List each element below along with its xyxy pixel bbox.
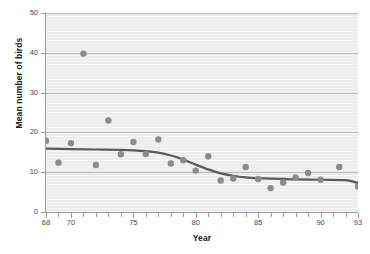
- x-tick-mark: [296, 213, 297, 217]
- data-point: [255, 176, 261, 182]
- x-tick-label: 80: [187, 219, 205, 227]
- data-point: [317, 177, 323, 183]
- x-tick-mark: [121, 213, 122, 217]
- data-point: [180, 157, 186, 163]
- data-point: [168, 160, 174, 166]
- data-point: [336, 164, 342, 170]
- x-tick-mark: [83, 213, 84, 217]
- data-point: [355, 183, 358, 189]
- x-axis-line: [45, 212, 358, 213]
- x-tick-mark: [271, 213, 272, 217]
- data-point: [130, 139, 136, 145]
- x-tick-mark: [171, 213, 172, 217]
- data-layer: [46, 13, 358, 212]
- y-tick-label: 0: [20, 208, 38, 216]
- data-point: [46, 138, 49, 144]
- x-tick-mark: [233, 213, 234, 217]
- y-tick-mark: [41, 13, 45, 14]
- y-tick-mark: [41, 172, 45, 173]
- x-tick-mark: [283, 213, 284, 217]
- x-tick-mark: [108, 213, 109, 217]
- x-tick-label: 68: [37, 219, 55, 227]
- x-tick-mark: [208, 213, 209, 217]
- data-point: [118, 151, 124, 157]
- x-tick-mark: [58, 213, 59, 217]
- y-tick-label: 10: [20, 168, 38, 176]
- data-point: [242, 164, 248, 170]
- y-tick-mark: [41, 93, 45, 94]
- x-tick-mark: [246, 213, 247, 217]
- x-tick-mark: [146, 213, 147, 217]
- data-point: [193, 167, 199, 173]
- x-tick-mark: [221, 213, 222, 217]
- data-point: [218, 177, 224, 183]
- trend-line: [46, 149, 358, 183]
- x-tick-label: 90: [312, 219, 330, 227]
- data-points-group: [46, 50, 358, 191]
- x-tick-label: 75: [124, 219, 142, 227]
- data-point: [267, 185, 273, 191]
- chart-figure: 01020304050 68707580859093 Mean number o…: [0, 0, 370, 254]
- x-tick-label: 70: [62, 219, 80, 227]
- x-tick-mark: [183, 213, 184, 217]
- data-point: [80, 50, 86, 56]
- plot-area: [46, 13, 358, 212]
- y-axis-line: [45, 13, 46, 213]
- data-point: [93, 162, 99, 168]
- data-point: [155, 136, 161, 142]
- data-point: [68, 140, 74, 146]
- x-tick-label: 85: [249, 219, 267, 227]
- x-tick-label: 93: [349, 219, 367, 227]
- data-point: [305, 170, 311, 176]
- data-point: [55, 159, 61, 165]
- data-point: [230, 175, 236, 181]
- data-point: [292, 174, 298, 180]
- data-point: [280, 179, 286, 185]
- x-axis-title: Year: [46, 233, 358, 243]
- data-point: [143, 151, 149, 157]
- data-point: [105, 117, 111, 123]
- x-tick-mark: [158, 213, 159, 217]
- y-axis-title: Mean number of birds: [14, 18, 24, 148]
- y-tick-label: 50: [20, 9, 38, 17]
- x-tick-mark: [308, 213, 309, 217]
- x-tick-mark: [333, 213, 334, 217]
- y-tick-mark: [41, 132, 45, 133]
- data-point: [205, 153, 211, 159]
- y-tick-mark: [41, 212, 45, 213]
- x-tick-mark: [346, 213, 347, 217]
- x-tick-mark: [96, 213, 97, 217]
- y-tick-mark: [41, 53, 45, 54]
